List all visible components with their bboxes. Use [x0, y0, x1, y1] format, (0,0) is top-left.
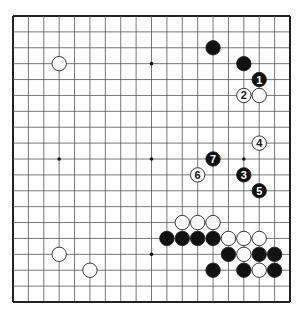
black-stone — [221, 247, 235, 261]
white-stone — [206, 215, 220, 229]
white-stone — [83, 263, 97, 277]
black-stone — [237, 56, 251, 70]
move-number: 4 — [256, 137, 263, 149]
black-stone — [267, 263, 281, 277]
black-stone — [267, 247, 281, 261]
white-stone-move-6: 6 — [190, 168, 204, 182]
black-stone — [190, 231, 204, 245]
go-board: 1247635 — [0, 0, 305, 316]
black-stone-move-5: 5 — [252, 184, 266, 198]
black-stone — [206, 41, 220, 55]
white-stone — [52, 247, 66, 261]
move-number: 7 — [210, 153, 216, 165]
white-stone-move-2: 2 — [237, 88, 251, 102]
black-stone — [175, 231, 189, 245]
star-point — [150, 253, 154, 257]
move-number: 6 — [195, 169, 201, 181]
black-stone — [237, 263, 251, 277]
black-stone-move-7: 7 — [206, 152, 220, 166]
white-stone — [190, 215, 204, 229]
white-stone — [252, 231, 266, 245]
black-stone-move-3: 3 — [237, 168, 251, 182]
black-stone — [206, 231, 220, 245]
white-stone — [237, 231, 251, 245]
black-stone — [252, 247, 266, 261]
star-point — [242, 157, 246, 161]
star-point — [150, 62, 154, 66]
white-stone — [175, 215, 189, 229]
star-point — [150, 157, 154, 161]
star-point — [57, 157, 61, 161]
white-stone-move-4: 4 — [252, 136, 266, 150]
move-number: 3 — [241, 169, 247, 181]
white-stone — [252, 263, 266, 277]
go-board-diagram: 1247635 — [0, 0, 305, 316]
black-stone — [160, 231, 174, 245]
white-stone — [237, 247, 251, 261]
white-stone — [221, 231, 235, 245]
move-number: 2 — [241, 89, 247, 101]
move-number: 1 — [256, 74, 262, 86]
black-stone-move-1: 1 — [252, 72, 266, 86]
move-number: 5 — [256, 185, 262, 197]
white-stone — [52, 56, 66, 70]
black-stone — [206, 263, 220, 277]
white-stone — [252, 88, 266, 102]
